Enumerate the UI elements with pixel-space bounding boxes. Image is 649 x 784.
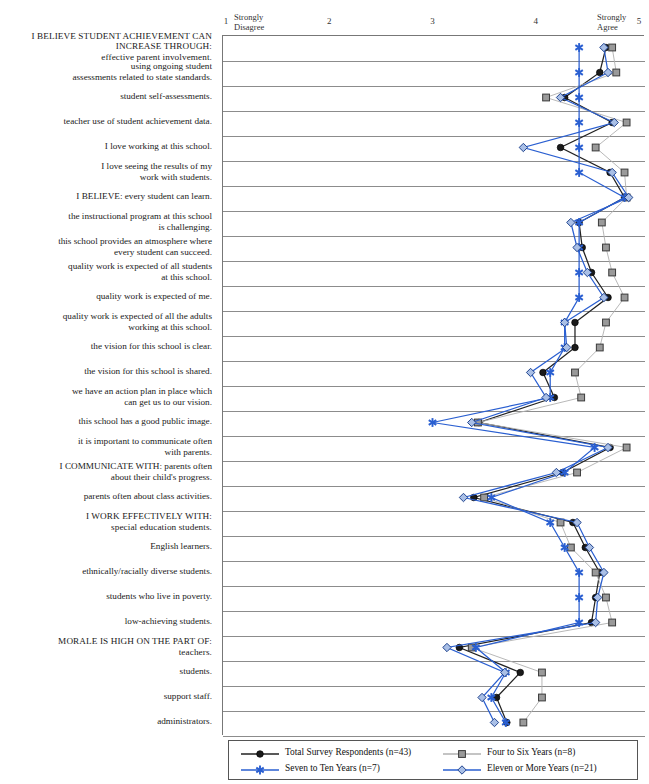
data-point-square (609, 619, 616, 626)
data-point-diamond (526, 368, 534, 376)
category-label: this school has a good public image. (0, 416, 216, 426)
category-label: I WORK EFFECTIVELY WITH: special educati… (0, 511, 216, 532)
data-point-asterisk (575, 593, 582, 602)
data-point-asterisk (575, 118, 582, 127)
legend-item[interactable]: Total Survey Respondents (n=43) (239, 747, 411, 761)
data-point-square (543, 94, 550, 101)
data-point-asterisk (546, 518, 553, 527)
data-point-square (623, 119, 630, 126)
data-point-diamond (519, 143, 527, 151)
category-labels: I BELIEVE STUDENT ACHIEVEMENT CAN INCREA… (0, 35, 216, 735)
category-label: administrators. (0, 716, 216, 726)
data-point-circle (540, 369, 547, 376)
data-point-square (592, 569, 599, 576)
data-point-circle (257, 751, 264, 758)
data-point-square (459, 751, 466, 758)
category-label: quality work is expected of all students… (0, 261, 216, 282)
data-point-square (572, 369, 579, 376)
category-label: low-achieving students. (0, 616, 216, 626)
category-label: we have an action plan in place which ca… (0, 386, 216, 407)
category-label: the instructional program at this school… (0, 211, 216, 232)
data-point-asterisk (575, 43, 582, 52)
x-axis-header: Strongly Disagree Strongly Agree 12345 (0, 0, 644, 35)
legend-item[interactable]: Four to Six Years (n=8) (441, 747, 575, 761)
data-point-square (578, 394, 585, 401)
data-point-square (574, 469, 581, 476)
data-point-circle (572, 319, 579, 326)
x-tick-5: 5 (629, 16, 649, 26)
legend-label: Total Survey Respondents (n=43) (285, 747, 411, 757)
category-label: I BELIEVE STUDENT ACHIEVEMENT CAN INCREA… (0, 31, 216, 62)
data-point-circle (517, 669, 524, 676)
data-point-diamond (458, 766, 466, 774)
data-point-diamond (490, 718, 498, 726)
gridline (223, 736, 645, 737)
legend-label: Eleven or More Years (n=21) (487, 763, 597, 773)
data-point-square (557, 519, 564, 526)
data-point-asterisk (575, 268, 582, 277)
data-point-square (603, 244, 610, 251)
data-point-square (481, 494, 488, 501)
data-point-square (621, 294, 628, 301)
data-point-square (623, 444, 630, 451)
data-point-diamond (542, 393, 550, 401)
x-tick-3: 3 (423, 16, 443, 26)
category-label: this school provides an atmosphere where… (0, 236, 216, 257)
category-label: I love working at this school. (0, 141, 216, 151)
category-label: students who live in poverty. (0, 591, 216, 601)
legend-item[interactable]: Seven to Ten Years (n=7) (239, 763, 380, 777)
category-label: MORALE IS HIGH ON THE PART OF: teachers. (0, 636, 216, 657)
category-label: using ongoing student assessments relate… (0, 61, 216, 82)
data-point-asterisk (575, 168, 582, 177)
data-point-square (539, 694, 546, 701)
data-point-square (613, 69, 620, 76)
legend-marker-square (441, 747, 483, 761)
category-label: the vision for this school is clear. (0, 341, 216, 351)
x-tick-1: 1 (216, 16, 236, 26)
category-label: parents often about class activities. (0, 491, 216, 501)
legend-marker-circle (239, 747, 281, 761)
category-label: quality work is expected of all the adul… (0, 311, 216, 332)
axis-anchor-strongly-agree: Strongly Agree (597, 13, 626, 32)
legend-marker-asterisk (239, 763, 281, 777)
data-point-circle (572, 344, 579, 351)
data-point-diamond (459, 493, 467, 501)
legend-label: Four to Six Years (n=8) (487, 747, 575, 757)
data-point-square (609, 269, 616, 276)
category-label: students. (0, 666, 216, 676)
legend-label: Seven to Ten Years (n=7) (285, 763, 380, 773)
series-1 (456, 44, 628, 726)
data-point-square (621, 169, 628, 176)
data-point-square (596, 344, 603, 351)
data-point-square (598, 219, 605, 226)
category-label: support staff. (0, 691, 216, 701)
legend-marker-diamond (441, 763, 483, 777)
data-point-square (539, 669, 546, 676)
category-label: I love seeing the results of my work wit… (0, 161, 216, 182)
category-label: it is important to communicate often wit… (0, 436, 216, 457)
data-point-square (468, 644, 475, 651)
data-point-asterisk (575, 143, 582, 152)
data-point-square (520, 719, 527, 726)
data-point-square (567, 544, 574, 551)
data-point-asterisk (575, 93, 582, 102)
data-point-square (609, 44, 616, 51)
x-tick-2: 2 (319, 16, 339, 26)
data-point-asterisk (575, 293, 582, 302)
category-label: quality work is expected of me. (0, 291, 216, 301)
data-point-diamond (604, 68, 612, 76)
data-point-circle (596, 69, 603, 76)
data-point-circle (551, 394, 558, 401)
data-point-square (603, 319, 610, 326)
category-label: the vision for this school is shared. (0, 366, 216, 376)
category-label: English learners. (0, 541, 216, 551)
series-layer (222, 35, 644, 735)
legend-item[interactable]: Eleven or More Years (n=21) (441, 763, 597, 777)
category-label: I COMMUNICATE WITH: parents often about … (0, 461, 216, 482)
data-point-circle (557, 144, 564, 151)
data-point-square (603, 594, 610, 601)
axis-anchor-strongly-disagree: Strongly Disagree (234, 13, 264, 32)
category-label: student self-assessments. (0, 91, 216, 101)
data-point-asterisk (575, 568, 582, 577)
